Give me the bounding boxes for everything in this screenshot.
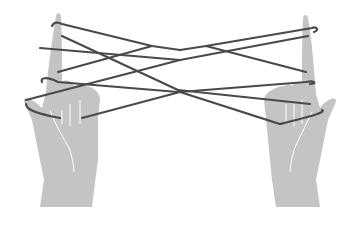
right-hand xyxy=(264,15,336,207)
left-hand xyxy=(24,13,100,207)
string-figure-illustration xyxy=(0,0,360,226)
